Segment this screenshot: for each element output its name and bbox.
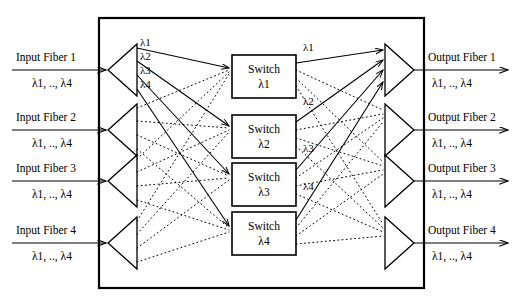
output-fiber-arrows [414, 70, 508, 243]
mux-wavelength-label-4: λ4 [303, 181, 314, 192]
demux-wavelength-label-2: λ2 [140, 51, 151, 62]
switch-2-box[interactable]: Switch λ2 [232, 122, 296, 151]
output-fiber-3-wavelengths: λ1, .., λ4 [432, 189, 472, 201]
switch-4-title: Switch [232, 219, 296, 234]
input-fiber-3-label: Input Fiber 3 [16, 163, 76, 175]
input-fiber-arrows [12, 70, 106, 243]
demux-wavelength-label-4: λ4 [140, 79, 151, 90]
demux-wavelength-label-1: λ1 [140, 37, 151, 48]
output-fiber-2-label: Output Fiber 2 [428, 112, 496, 124]
switch-3-title: Switch [232, 170, 296, 185]
switch-1-title: Switch [232, 62, 296, 77]
demux-wavelength-label-3: λ3 [140, 65, 151, 76]
input-fiber-1-wavelengths: λ1, .., λ4 [32, 78, 72, 90]
input-fiber-1-label: Input Fiber 1 [16, 52, 76, 64]
switch-to-mux1-links [296, 50, 383, 220]
switch-4-box[interactable]: Switch λ4 [232, 219, 296, 248]
output-fiber-2-wavelengths: λ1, .., λ4 [432, 138, 472, 150]
output-fiber-4-wavelengths: λ1, .., λ4 [432, 251, 472, 263]
switch-2-wavelength: λ2 [232, 137, 296, 152]
demultiplexer-triangles [108, 44, 137, 269]
mux-wavelength-label-2: λ2 [303, 96, 314, 107]
output-fiber-1-wavelengths: λ1, .., λ4 [432, 78, 472, 90]
demux-other-to-switch-links [137, 70, 229, 262]
output-fiber-4-label: Output Fiber 4 [428, 225, 496, 237]
input-fiber-4-label: Input Fiber 4 [16, 225, 76, 237]
output-fiber-1-label: Output Fiber 1 [428, 52, 496, 64]
multiplexer-triangles [385, 44, 414, 269]
input-fiber-2-label: Input Fiber 2 [16, 112, 76, 124]
mux-wavelength-label-3: λ3 [303, 143, 314, 154]
switch-1-box[interactable]: Switch λ1 [232, 62, 296, 91]
switch-3-wavelength: λ3 [232, 185, 296, 200]
input-fiber-3-wavelengths: λ1, .., λ4 [32, 189, 72, 201]
diagram-canvas: Input Fiber 1 λ1, .., λ4 Input Fiber 2 λ… [0, 0, 522, 307]
input-fiber-2-wavelengths: λ1, .., λ4 [32, 138, 72, 150]
output-fiber-3-label: Output Fiber 3 [428, 163, 496, 175]
switch-3-box[interactable]: Switch λ3 [232, 170, 296, 199]
mux-wavelength-label-1: λ1 [303, 42, 314, 53]
switch-2-title: Switch [232, 122, 296, 137]
input-fiber-4-wavelengths: λ1, .., λ4 [32, 251, 72, 263]
switch-1-wavelength: λ1 [232, 77, 296, 92]
switch-4-wavelength: λ4 [232, 234, 296, 249]
